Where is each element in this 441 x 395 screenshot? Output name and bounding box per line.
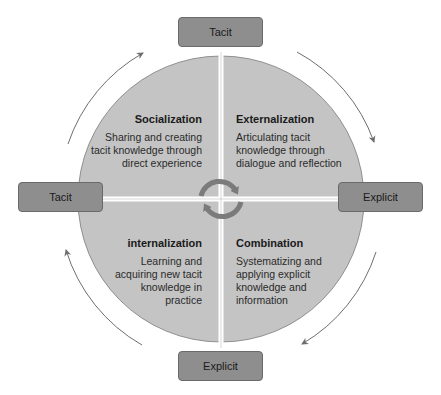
quadrant-desc-line: direct experience	[91, 157, 202, 170]
quadrant-desc-line: knowledge and	[236, 281, 322, 294]
label-right-explicit: Explicit	[363, 191, 398, 203]
label-box-top-tacit: Tacit	[178, 17, 263, 47]
quadrant-title: Externalization	[236, 113, 342, 126]
quadrant-desc-line: dialogue and reflection	[236, 157, 342, 170]
quadrant-desc-line: Sharing and creating	[91, 131, 202, 144]
quadrant-desc-line: Learning and	[115, 255, 202, 268]
quadrant-desc-line: Articulating tacit	[236, 131, 342, 144]
quadrant-combination: Combination Systematizing and applying e…	[236, 237, 322, 307]
quadrant-desc-line: acquiring new tacit	[115, 268, 202, 281]
quadrant-title: Combination	[236, 237, 322, 250]
quadrant-desc-line: knowledge in	[115, 281, 202, 294]
quadrant-title: internalization	[115, 237, 202, 250]
quadrant-desc-line: tacit knowledge through	[91, 144, 202, 157]
quadrant-desc-line: applying explicit	[236, 268, 322, 281]
label-top-tacit: Tacit	[209, 26, 232, 38]
quadrant-desc-line: Systematizing and	[236, 255, 322, 268]
label-box-bottom-explicit: Explicit	[178, 351, 263, 381]
quadrant-desc-line: information	[236, 294, 322, 307]
quadrant-socialization: Socialization Sharing and creating tacit…	[91, 113, 202, 170]
quadrant-externalization: Externalization Articulating tacit knowl…	[236, 113, 342, 170]
quadrant-title: Socialization	[91, 113, 202, 126]
label-box-left-tacit: Tacit	[18, 182, 103, 212]
label-bottom-explicit: Explicit	[203, 360, 238, 372]
label-box-right-explicit: Explicit	[338, 182, 423, 212]
label-left-tacit: Tacit	[49, 191, 72, 203]
quadrant-desc-line: knowledge through	[236, 144, 342, 157]
quadrant-internalization: internalization Learning and acquiring n…	[115, 237, 202, 307]
quadrant-desc-line: practice	[115, 294, 202, 307]
